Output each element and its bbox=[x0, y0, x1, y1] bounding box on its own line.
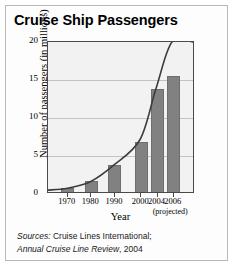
y-tick-label: 0 bbox=[0, 187, 38, 197]
sources-title: Annual Cruise Line Review bbox=[17, 244, 119, 254]
x-tick-mark bbox=[114, 193, 115, 197]
y-tick-label: 20 bbox=[0, 35, 38, 45]
x-tick-mark bbox=[67, 193, 68, 197]
trend-curve bbox=[48, 42, 193, 192]
sources-year: , 2004 bbox=[119, 244, 143, 254]
plot-area bbox=[47, 41, 194, 193]
chart-figure: Cruise Ship Passengers Number of passeng… bbox=[0, 0, 234, 268]
y-tick-label: 10 bbox=[0, 111, 38, 121]
sources-note: Sources: Cruise Lines International; Ann… bbox=[17, 230, 217, 255]
projected-note: (projected) bbox=[153, 207, 188, 216]
y-tick-label: 15 bbox=[0, 73, 38, 83]
x-tick-mark bbox=[157, 193, 158, 197]
sources-label: Sources: bbox=[17, 231, 51, 241]
x-tick-mark bbox=[173, 193, 174, 197]
x-tick-label: 1990 bbox=[100, 196, 128, 206]
x-tick-label: 2006 bbox=[159, 196, 187, 206]
x-tick-mark bbox=[90, 193, 91, 197]
x-tick-mark bbox=[140, 193, 141, 197]
sources-line1: Cruise Lines International; bbox=[51, 231, 152, 241]
y-tick-label: 5 bbox=[0, 149, 38, 159]
